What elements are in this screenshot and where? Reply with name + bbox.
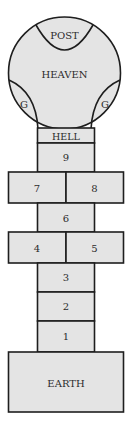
square-7-label: 7 <box>34 183 40 194</box>
hell-label: HELL <box>52 131 81 142</box>
square-9: 9 <box>38 143 95 172</box>
square-4: 4 <box>9 232 67 263</box>
square-7: 7 <box>9 172 67 203</box>
square-1: 1 <box>38 321 95 352</box>
earth-label: EARTH <box>47 378 85 389</box>
square-4-label: 4 <box>34 243 40 254</box>
square-9-label: 9 <box>63 152 69 163</box>
earth-box: EARTH <box>9 352 124 412</box>
post-label: POST <box>50 30 79 41</box>
square-3-label: 3 <box>63 272 69 283</box>
square-8-label: 8 <box>91 183 97 194</box>
heaven-region: POST HEAVEN G G <box>9 17 121 129</box>
square-1-label: 1 <box>63 331 69 342</box>
square-6-label: 6 <box>63 213 69 224</box>
square-8: 8 <box>66 172 124 203</box>
square-5: 5 <box>66 232 124 263</box>
hell-box: HELL <box>38 128 95 143</box>
heaven-label: HEAVEN <box>41 69 87 80</box>
square-2-label: 2 <box>63 301 69 312</box>
square-6: 6 <box>38 203 95 232</box>
right-g-label: G <box>101 99 109 110</box>
square-3: 3 <box>38 263 95 292</box>
square-5-label: 5 <box>91 243 97 254</box>
hopscotch-diagram: POST HEAVEN G G HELL 9 7 8 6 4 5 3 <box>0 0 134 426</box>
square-2: 2 <box>38 292 95 321</box>
left-g-label: G <box>20 99 28 110</box>
